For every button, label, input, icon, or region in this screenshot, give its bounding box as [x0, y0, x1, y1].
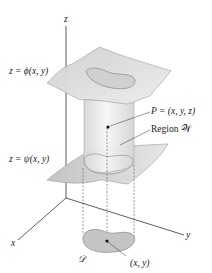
- point-label: P = (x, y, z): [150, 106, 195, 117]
- y-axis: [66, 198, 184, 235]
- region-label: Region 𝒲: [151, 124, 193, 134]
- x-axis: [18, 198, 66, 240]
- projection-point-label: (x, y): [130, 258, 150, 269]
- bottom-surface-label: z = ψ(x, y): [8, 154, 49, 165]
- domain-region: [83, 230, 135, 253]
- y-axis-label: y: [185, 230, 191, 240]
- point-p: [106, 125, 109, 128]
- x-axis-label: x: [10, 238, 16, 248]
- diagram-canvas: z x y 𝒟 (x, y) z = ϕ(x, y) z = ψ(x, y) P…: [0, 0, 212, 273]
- domain-label: 𝒟: [78, 254, 88, 264]
- region-cylinder: [84, 100, 134, 173]
- top-surface-label: z = ϕ(x, y): [8, 66, 48, 77]
- z-axis-label: z: [63, 14, 68, 24]
